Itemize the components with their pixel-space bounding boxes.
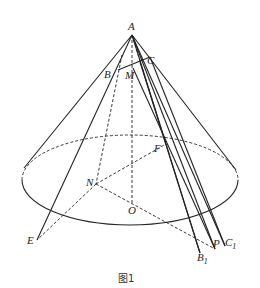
- label-C: C: [147, 54, 155, 66]
- label-O: O: [128, 204, 136, 216]
- figure-caption: 图1: [118, 273, 134, 284]
- segment-MP: [133, 68, 215, 249]
- label-A: A: [127, 20, 135, 32]
- segment-AC1: [132, 35, 225, 246]
- segment-AE: [37, 35, 132, 240]
- segment-AF: [132, 35, 166, 144]
- label-M: M: [124, 69, 135, 81]
- label-B: B: [104, 68, 111, 80]
- label-E: E: [26, 234, 34, 246]
- segment-NP: [96, 184, 215, 249]
- label-P: P: [212, 237, 220, 249]
- label-F: F: [153, 142, 161, 154]
- generator-left: [24, 35, 132, 168]
- label-B1: B1: [197, 251, 208, 266]
- segment-AP: [132, 35, 215, 249]
- base-circle-back: [22, 135, 238, 180]
- label-N: N: [85, 176, 94, 188]
- label-C1: C1: [225, 236, 236, 251]
- cone-diagram: A B C M F N O E P B1 C1 图1: [0, 0, 260, 288]
- segment-NE: [37, 184, 96, 240]
